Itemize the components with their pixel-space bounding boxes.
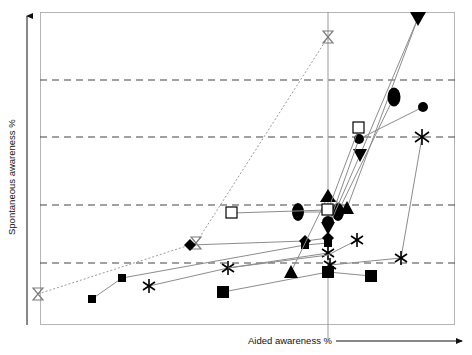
x-axis-label: Aided awareness % — [248, 335, 333, 346]
marker-open-square — [322, 204, 333, 215]
marker-open-square — [226, 207, 237, 218]
series-small-square-series — [88, 239, 332, 303]
series-line — [38, 37, 328, 294]
marker-open-square — [353, 122, 364, 133]
series-diamond-series — [184, 232, 334, 251]
series-line — [149, 253, 328, 286]
marker-bowtie — [33, 288, 43, 300]
marker-small-square — [88, 295, 96, 303]
marker-circle — [322, 216, 334, 228]
marker-circle — [354, 134, 364, 144]
marker-ellipse — [388, 88, 401, 107]
marker-down-triangle — [410, 12, 426, 26]
series-line — [223, 272, 371, 292]
marker-up-triangle — [284, 265, 298, 278]
marker-ellipse — [292, 203, 304, 221]
series-bowtie-series — [33, 31, 333, 300]
marker-big-square — [322, 266, 334, 278]
gridlines-group — [40, 80, 455, 263]
marker-big-square — [365, 270, 377, 282]
chart-root: Spontaneous awareness % Aided awareness … — [0, 0, 472, 355]
series-line — [328, 18, 418, 228]
series-line — [298, 97, 394, 212]
series-line — [291, 18, 418, 272]
marker-big-square — [217, 286, 229, 298]
y-axis-label: Spontaneous awareness % — [6, 119, 17, 235]
awareness-scatter-chart: Spontaneous awareness % Aided awareness … — [0, 0, 472, 355]
marker-circle — [418, 102, 428, 112]
marker-small-square — [118, 274, 126, 282]
plot-frame — [41, 13, 455, 325]
marker-star — [143, 279, 155, 293]
series-big-square-series — [217, 266, 377, 298]
marker-small-square — [324, 239, 332, 247]
series-open-square-series — [226, 122, 364, 218]
marker-star — [351, 233, 363, 247]
